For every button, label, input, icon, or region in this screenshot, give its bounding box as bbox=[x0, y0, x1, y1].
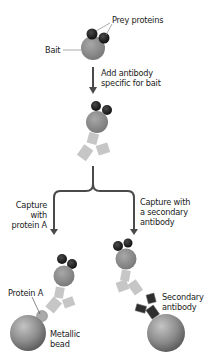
bait-icon bbox=[116, 249, 137, 270]
bait-icon bbox=[54, 266, 75, 287]
prey-protein-icon bbox=[87, 29, 98, 40]
branch-bracket bbox=[54, 166, 134, 230]
right-branch-label-line3: antibody bbox=[140, 217, 174, 227]
arrow-right-head bbox=[130, 229, 138, 235]
prey-proteins-label: Prey proteins bbox=[112, 15, 163, 25]
prey-protein-icon bbox=[91, 101, 101, 111]
metallic-bead-label-line1: Metallic bbox=[50, 329, 80, 339]
secondary-antibody-label-line2: antibody bbox=[162, 302, 196, 312]
antibody-icon bbox=[116, 269, 144, 295]
arrow-left-head bbox=[50, 229, 58, 235]
bait-antibody-complex bbox=[77, 101, 112, 161]
left-branch-label-line3: protein A bbox=[11, 220, 47, 230]
left-branch-label-line2: with bbox=[30, 210, 47, 220]
bait-complex-top bbox=[63, 23, 112, 60]
left-branch-label-line1: Capture bbox=[16, 200, 47, 210]
protein-a-leader-line bbox=[32, 297, 40, 314]
step1-label-line2: specific for bait bbox=[101, 78, 161, 88]
prey-leader-line bbox=[96, 23, 110, 31]
step1-label-line1: Add antibody bbox=[101, 68, 153, 78]
prey-protein-icon bbox=[124, 239, 133, 248]
prey-protein-icon bbox=[57, 254, 67, 264]
secondary-antibody-icon bbox=[135, 293, 159, 319]
prey-leader-line bbox=[106, 24, 112, 35]
prey-protein-icon bbox=[113, 241, 123, 251]
right-branch-label-line1: Capture with bbox=[140, 197, 190, 207]
arrow-step1 bbox=[89, 67, 97, 94]
bait-label: Bait bbox=[45, 45, 60, 55]
antibody-icon bbox=[77, 132, 110, 161]
bait-icon bbox=[86, 111, 108, 133]
metallic-bead-icon bbox=[147, 314, 185, 352]
prey-protein-icon bbox=[99, 33, 110, 44]
metallic-bead-icon bbox=[10, 315, 46, 351]
secondary-antibody-label-line1: Secondary bbox=[162, 292, 204, 302]
protein-a-label: Protein A bbox=[8, 288, 43, 298]
right-branch-label-line2: a secondary bbox=[140, 207, 188, 217]
metallic-bead-label-line2: bead bbox=[50, 339, 70, 349]
antibody-icon bbox=[45, 286, 75, 313]
